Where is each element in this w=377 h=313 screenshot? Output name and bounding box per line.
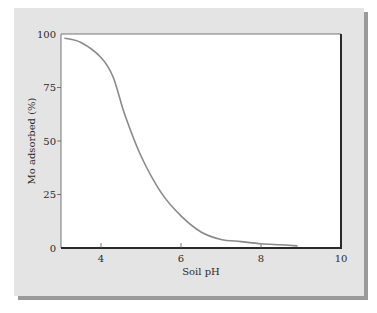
x-axis-label: Soil pH	[182, 266, 220, 277]
y-tick-label: 25	[43, 189, 56, 200]
y-tick-label: 75	[43, 82, 56, 93]
y-tick-label: 50	[43, 136, 56, 147]
y-axis-label: Mo adsorbed (%)	[26, 97, 37, 184]
y-tick-label: 0	[50, 243, 56, 254]
x-tick-label: 6	[178, 253, 184, 264]
y-tick-label: 100	[37, 29, 56, 40]
y-ticks: 0255075100	[37, 29, 61, 254]
chart: 0255075100 46810 Soil pH Mo adsorbed (%)	[0, 0, 377, 313]
plot-area	[61, 34, 341, 248]
x-tick-label: 10	[335, 253, 348, 264]
x-tick-label: 4	[98, 253, 104, 264]
x-tick-label: 8	[258, 253, 264, 264]
